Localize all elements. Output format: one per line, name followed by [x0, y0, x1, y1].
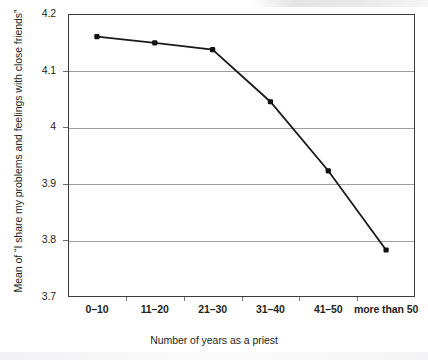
- data-point-2: [210, 47, 215, 52]
- data-point-4: [326, 168, 331, 173]
- data-point-0: [94, 34, 99, 39]
- chart-figure: 4.24.143.93.83.7 0–1011–2021–3031–4041–5…: [0, 0, 428, 360]
- data-series-layer: [0, 0, 428, 360]
- data-point-5: [383, 247, 388, 252]
- data-point-1: [152, 40, 157, 45]
- x-axis-title: Number of years as a priest: [0, 334, 428, 346]
- y-axis-title: Mean of “I share my problems and feeling…: [12, 1, 24, 301]
- series-line: [97, 37, 386, 250]
- data-point-3: [268, 99, 273, 104]
